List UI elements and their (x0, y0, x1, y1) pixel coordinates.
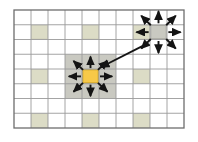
pattern-cell (134, 70, 150, 84)
pattern-cell (32, 114, 48, 128)
active-cell (83, 70, 98, 83)
pattern-cell (32, 25, 48, 39)
pattern-cell (83, 114, 99, 128)
pattern-cell (83, 25, 99, 39)
pattern-cell (134, 114, 150, 128)
secondary-cell (151, 26, 166, 39)
grid-expansion-diagram (0, 0, 198, 142)
diagram-canvas (0, 0, 198, 142)
pattern-cell (32, 70, 48, 84)
